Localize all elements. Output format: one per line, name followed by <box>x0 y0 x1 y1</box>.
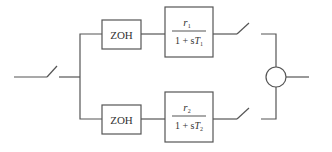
split-bus <box>80 34 102 119</box>
transfer-function-block-1 <box>165 7 213 57</box>
tf-denominator-2: 1 + sT2 <box>175 120 203 132</box>
tf-denominator-1: 1 + sT1 <box>175 35 203 47</box>
zoh-label-2: ZOH <box>110 114 133 126</box>
block-diagram: ZOH r1 1 + sT1 ZOH r2 1 + sT2 <box>0 0 332 152</box>
branch-1: ZOH r1 1 + sT1 <box>102 7 249 57</box>
input-sampler <box>14 66 80 77</box>
summing-section <box>261 34 309 119</box>
sum-input-line-2 <box>261 87 276 119</box>
branch-2: ZOH r2 1 + sT2 <box>102 92 249 142</box>
input-switch-icon <box>47 66 57 77</box>
output-switch-2-icon <box>237 108 249 119</box>
transfer-function-block-2 <box>165 92 213 142</box>
zoh-label-1: ZOH <box>110 29 133 41</box>
sum-input-line-1 <box>261 34 276 67</box>
summing-junction-icon <box>266 67 286 87</box>
output-switch-1-icon <box>237 23 249 34</box>
